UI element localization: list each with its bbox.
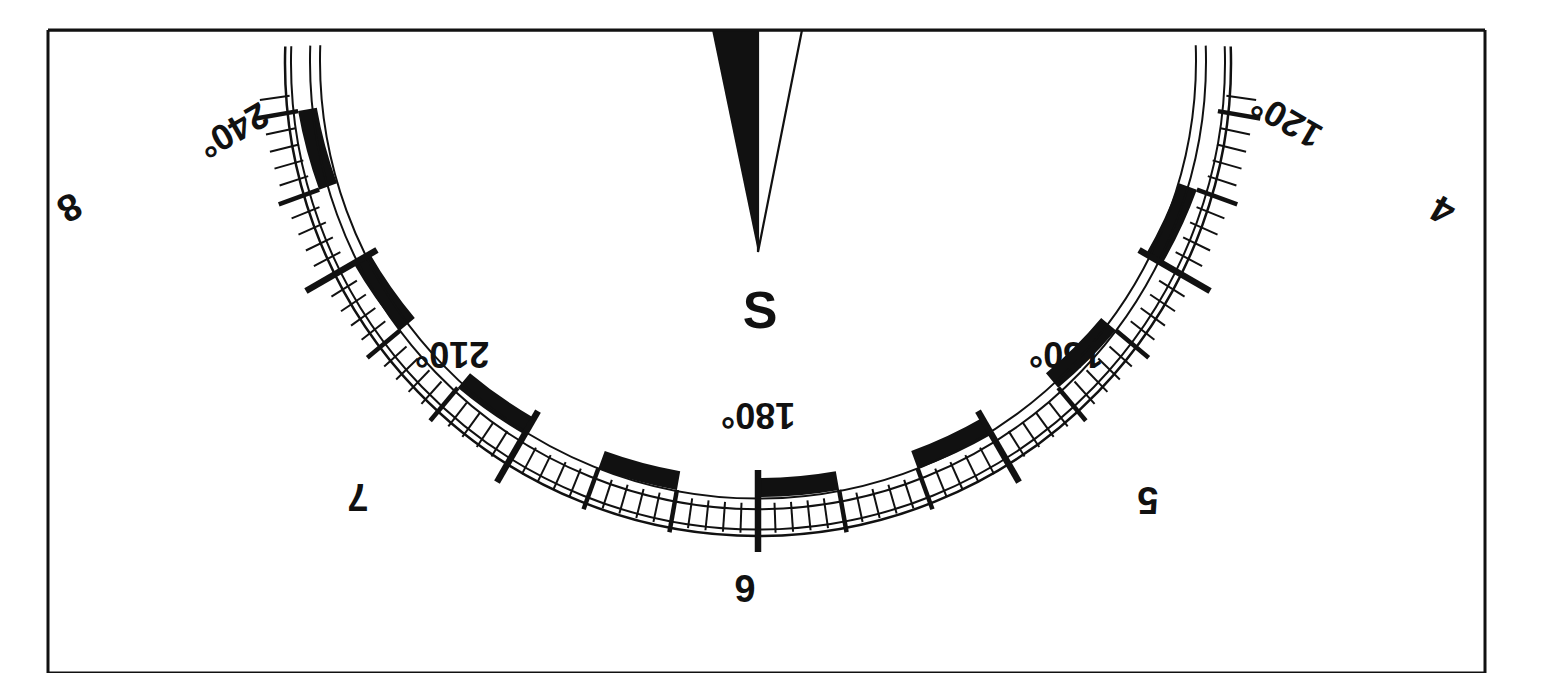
degree-label-210: 210° [415,334,489,375]
top-margin-mask [0,0,1557,30]
compass-card-figure: 120°150°180°210°240° 45678 S [0,0,1557,673]
point-label-6: 6 [734,567,755,609]
degree-label-180: 180° [721,395,795,436]
degree-label-150: 150° [1029,334,1103,375]
cardinal-label-south: S [743,281,778,339]
compass-card-canvas: 120°150°180°210°240° 45678 S [0,0,1557,673]
needle-cardinal-label: S [743,281,778,339]
point-label-7: 7 [347,476,368,518]
point-label-5: 5 [1137,479,1158,521]
